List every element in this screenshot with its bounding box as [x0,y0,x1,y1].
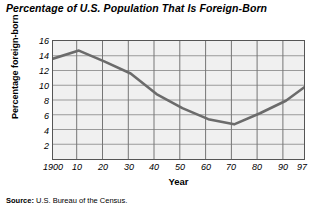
x-tick-label: 50 [166,163,194,172]
plot-wrapper: Percentage foreign-born 16 14 12 10 8 6 … [0,0,317,212]
y-tick-label: 12 [27,67,49,76]
x-tick-label: 60 [192,163,220,172]
x-axis-title: Year [52,176,305,187]
chart-figure: Percentage of U.S. Population That Is Fo… [0,0,317,212]
y-tick-label: 6 [27,112,49,121]
y-tick-label: 8 [27,97,49,106]
y-tick-label: 2 [27,142,49,151]
y-tick-label: 10 [27,82,49,91]
horizontal-gridlines [53,56,304,145]
source-note: Source: U.S. Bureau of the Census. [6,196,127,205]
y-axis-title: Percentage foreign-born [10,15,20,119]
data-series-line [53,51,304,125]
chart-plot-svg [53,41,304,159]
y-tick-label: 14 [27,52,49,61]
y-tick-label: 16 [27,37,49,46]
x-tick-label: 70 [217,163,245,172]
x-tick-label: 30 [115,163,143,172]
x-tick-label: 20 [89,163,117,172]
x-tick-label: 10 [63,163,91,172]
y-axis-tick-labels: 16 14 12 10 8 6 4 2 [24,0,49,212]
x-tick-label: 80 [243,163,271,172]
source-label: Source: [6,196,34,205]
x-tick-label: 40 [140,163,168,172]
source-text: U.S. Bureau of the Census. [36,196,127,205]
y-tick-label: 4 [27,127,49,136]
plot-area [52,40,305,160]
x-tick-label: 97 [288,163,316,172]
